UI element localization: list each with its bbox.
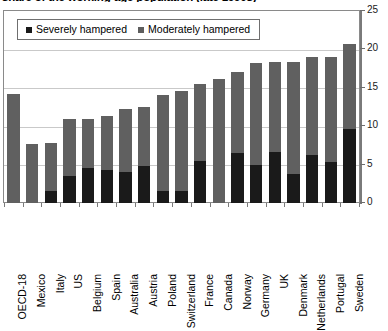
- bar-belgium: [82, 119, 94, 203]
- bar-segment-severely-hampered: [119, 172, 131, 203]
- bar-segment-moderately-hampered: [175, 91, 187, 192]
- bar-segment-moderately-hampered: [250, 63, 262, 164]
- y-axis-tick-label: 0: [367, 197, 373, 207]
- bar-segment-severely-hampered: [45, 191, 57, 203]
- bar-segment-moderately-hampered: [306, 57, 318, 155]
- x-axis-label-australia: Australia: [129, 274, 139, 315]
- bar-segment-moderately-hampered: [343, 44, 355, 128]
- bar-segment-moderately-hampered: [119, 109, 131, 172]
- bar-segment-severely-hampered: [231, 153, 243, 203]
- bar-segment-moderately-hampered: [213, 79, 225, 203]
- bar-segment-moderately-hampered: [269, 62, 281, 152]
- x-axis-label-austria: Austria: [148, 274, 158, 307]
- bar-segment-moderately-hampered: [26, 144, 38, 203]
- bar-segment-severely-hampered: [269, 152, 281, 203]
- bar-segment-moderately-hampered: [194, 84, 206, 161]
- bar-segment-moderately-hampered: [63, 119, 75, 176]
- y-axis-tick: [360, 125, 365, 126]
- y-axis-tick-label: 5: [367, 159, 373, 169]
- bar-mexico: [26, 144, 38, 203]
- bar-australia: [119, 109, 131, 203]
- bar-segment-severely-hampered: [250, 165, 262, 203]
- bar-segment-severely-hampered: [325, 162, 337, 203]
- bar-segment-severely-hampered: [194, 161, 206, 203]
- x-axis-label-norway: Norway: [242, 274, 252, 310]
- x-axis-label-france: France: [204, 274, 214, 307]
- bar-sweden: [343, 44, 355, 203]
- legend-item-severely-hampered: Severely hampered: [26, 24, 127, 35]
- bar-france: [194, 84, 206, 203]
- bar-segment-severely-hampered: [175, 191, 187, 203]
- bar-norway: [231, 72, 243, 203]
- bar-segment-severely-hampered: [157, 191, 169, 203]
- bar-us: [63, 119, 75, 203]
- y-axis-tick-label: 20: [367, 43, 378, 53]
- x-axis-label-netherlands: Netherlands: [316, 274, 326, 331]
- x-axis-label-mexico: Mexico: [36, 274, 46, 307]
- bar-oecd-18: [7, 94, 19, 203]
- x-axis-label-oecd-18: OECD-18: [17, 274, 27, 320]
- bar-canada: [213, 79, 225, 203]
- legend-item-moderately-hampered: Moderately hampered: [138, 24, 250, 35]
- legend-label: Moderately hampered: [148, 24, 250, 35]
- x-axis-label-uk: UK: [279, 274, 289, 289]
- x-axis-label-italy: Italy: [55, 274, 65, 293]
- bar-segment-moderately-hampered: [82, 119, 94, 169]
- x-axis-label-us: US: [73, 274, 83, 289]
- bar-segment-severely-hampered: [63, 176, 75, 203]
- bar-segment-severely-hampered: [287, 174, 299, 203]
- x-axis-label-portugal: Portugal: [335, 274, 345, 313]
- bar-segment-moderately-hampered: [101, 116, 113, 170]
- bar-segment-severely-hampered: [306, 155, 318, 203]
- bar-uk: [269, 62, 281, 203]
- y-axis-tick-label: 25: [367, 5, 378, 15]
- bar-portugal: [325, 57, 337, 203]
- bar-segment-severely-hampered: [138, 166, 150, 203]
- bar-germany: [250, 63, 262, 203]
- y-axis-tick-label: 15: [367, 82, 378, 92]
- bar-segment-moderately-hampered: [7, 94, 19, 203]
- x-axis-label-sweden: Sweden: [354, 274, 364, 312]
- y-axis-tick: [360, 87, 365, 88]
- bar-segment-moderately-hampered: [325, 57, 337, 162]
- bar-segment-moderately-hampered: [157, 95, 169, 191]
- bar-segment-moderately-hampered: [231, 72, 243, 153]
- y-axis: [360, 10, 362, 204]
- x-axis-label-belgium: Belgium: [92, 274, 102, 312]
- legend-swatch-icon: [26, 27, 32, 33]
- bar-segment-moderately-hampered: [45, 143, 57, 191]
- bar-segment-moderately-hampered: [138, 107, 150, 166]
- bar-netherlands: [306, 57, 318, 203]
- x-axis-label-denmark: Denmark: [298, 274, 308, 317]
- bar-spain: [101, 116, 113, 203]
- x-axis-labels: OECD-18MexicoItalyUSBelgiumSpainAustrali…: [0, 207, 388, 276]
- x-axis-label-spain: Spain: [111, 274, 121, 301]
- bar-switzerland: [175, 91, 187, 203]
- bar-austria: [138, 107, 150, 203]
- bar-segment-severely-hampered: [343, 129, 355, 203]
- y-axis-tick-label: 10: [367, 120, 378, 130]
- bar-italy: [45, 143, 57, 203]
- legend-label: Severely hampered: [36, 24, 127, 35]
- x-axis-label-canada: Canada: [223, 274, 233, 311]
- bar-segment-severely-hampered: [101, 170, 113, 203]
- bar-segment-severely-hampered: [82, 168, 94, 203]
- bar-segment-moderately-hampered: [287, 62, 299, 174]
- bar-denmark: [287, 62, 299, 203]
- y-axis-tick: [360, 48, 365, 49]
- y-axis-tick: [360, 164, 365, 165]
- legend-swatch-icon: [138, 27, 144, 33]
- chart-legend: Severely hampered Moderately hampered: [17, 19, 260, 40]
- y-axis-tick: [360, 10, 365, 11]
- x-axis-label-germany: Germany: [260, 274, 270, 317]
- chart-title: share of the working-age population (lat…: [2, 0, 386, 2]
- x-axis-label-poland: Poland: [167, 274, 177, 307]
- x-axis-label-switzerland: Switzerland: [186, 274, 196, 328]
- bar-poland: [157, 95, 169, 203]
